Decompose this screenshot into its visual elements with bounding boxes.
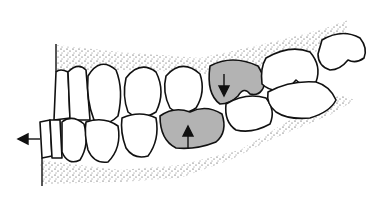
lower-molar-shaded	[160, 108, 224, 148]
illustration-canvas	[0, 0, 388, 200]
lower-incisor-2	[50, 120, 62, 158]
upper-molar-3	[318, 33, 365, 70]
lower-molar-2	[226, 96, 273, 131]
upper-premolar-1	[124, 67, 161, 117]
lower-canine	[62, 118, 86, 161]
lower-premolar-1	[85, 120, 119, 163]
dental-occlusion-illustration: Line drawing of a dental arch in lateral…	[0, 0, 388, 200]
upper-incisor-2	[68, 66, 90, 120]
left-arrow-icon	[18, 134, 40, 144]
upper-canine	[88, 64, 121, 123]
lower-premolar-2	[122, 114, 158, 157]
upper-premolar-2	[165, 66, 203, 113]
